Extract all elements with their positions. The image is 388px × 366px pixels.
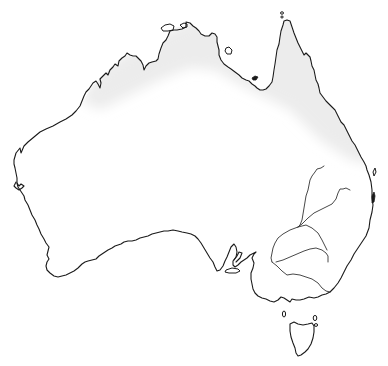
groote-eylandt: [225, 47, 232, 54]
shaded-zone: [80, 10, 372, 165]
shaded-tropical-band: [80, 10, 372, 165]
kangaroo-island: [225, 268, 240, 273]
tasmania-outline: [290, 322, 314, 356]
flinders-island-south: [314, 324, 317, 327]
river-system: [271, 166, 350, 292]
river-murray: [272, 262, 330, 292]
torres-strait-islet-2: [281, 16, 283, 18]
river-darling-lower: [271, 227, 298, 262]
river-darling-north: [298, 166, 324, 227]
river-lachlan: [298, 225, 327, 250]
river-darling-east: [298, 188, 350, 227]
australia-map: [0, 0, 388, 366]
king-island: [282, 311, 285, 317]
melville-island: [161, 24, 174, 31]
flinders-island: [313, 315, 317, 320]
river-murrumbidgee: [276, 248, 328, 262]
yorke-peninsula: [234, 252, 242, 262]
moreton-island: [373, 168, 376, 176]
torres-strait-islet: [281, 12, 284, 14]
mornington-island: [252, 76, 258, 80]
